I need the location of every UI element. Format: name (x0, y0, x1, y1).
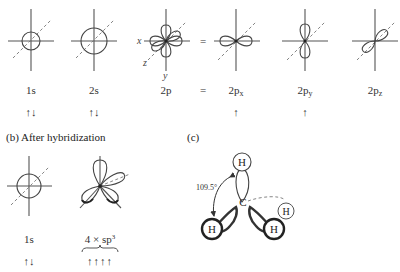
label-2py: 2py (298, 84, 313, 98)
electrons-1s: ↑↓ (26, 106, 37, 118)
orbital-sp3 (80, 156, 130, 208)
heading-c: (c) (187, 131, 200, 144)
axis-label-x: x (136, 35, 142, 46)
label-1s-b: 1s (24, 233, 34, 245)
orbital-2px (214, 9, 260, 71)
atom-c: C (239, 196, 246, 208)
atom-h-back: H (282, 206, 289, 217)
label-4sp3: 4 × sp3 (85, 233, 116, 245)
orbital-1s (8, 9, 54, 71)
equals-sign: = (200, 35, 206, 47)
equals-sign-2: = (200, 84, 206, 96)
bond-angle-label: 109.5° (196, 183, 217, 192)
orbital-1s-b (7, 156, 52, 216)
electrons-2py: ↑ (302, 106, 308, 118)
electrons-2s: ↑↓ (89, 106, 100, 118)
electrons-sp3: ↑↑↑↑ (87, 255, 113, 267)
orbital-2p: x z y (136, 9, 190, 81)
orbital-2s (71, 9, 117, 71)
label-2p: 2p (161, 84, 173, 96)
atom-h-top: H (238, 156, 246, 168)
orbital-2pz (352, 9, 398, 71)
methane-model: H H H H C 109.5° (196, 153, 294, 239)
brace (82, 245, 118, 252)
heading-after-hybridization: (b) After hybridization (6, 131, 106, 144)
label-2s: 2s (89, 84, 99, 96)
hybridization-diagram: x z y = 1s 2s 2p = 2px 2py 2pz ↑↓ ↑↓ ↑ ↑ (0, 0, 400, 272)
label-1s: 1s (26, 84, 36, 96)
atom-h-right: H (270, 223, 278, 235)
electrons-1s-b: ↑↓ (24, 255, 35, 267)
axis-label-y: y (162, 70, 168, 81)
atom-h-left: H (208, 223, 216, 235)
electrons-2px: ↑ (233, 106, 239, 118)
axis-label-z: z (142, 57, 147, 68)
label-2pz: 2pz (368, 84, 383, 98)
orbital-2py (282, 9, 328, 71)
label-2px: 2px (229, 84, 244, 98)
